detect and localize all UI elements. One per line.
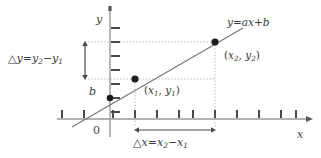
intercept-label: b — [89, 86, 96, 97]
delta-x-equals: = — [148, 136, 157, 149]
delta-y-equals: = — [23, 52, 32, 65]
x-axis-arrow — [306, 116, 313, 122]
equation-plus: + — [254, 16, 263, 28]
delta-y-arrow — [82, 41, 88, 80]
point1-label: (x1, y1) — [144, 85, 180, 97]
delta-x-term2-subscript: 1 — [183, 141, 188, 150]
delta-y-label: △y=y2−y1 — [8, 53, 63, 65]
line-equation-label: y=ax+b — [227, 17, 269, 28]
delta-y-term2-subscript: 1 — [58, 57, 63, 66]
point2-paren-close: ) — [256, 49, 260, 61]
delta-x-label: △x=x2−x1 — [133, 137, 188, 149]
point1-paren-close: ) — [176, 84, 180, 96]
origin-label: 0 — [93, 125, 100, 136]
x-axis-label: x — [297, 129, 303, 140]
delta-x-arrow — [134, 127, 216, 133]
figure-canvas — [0, 0, 321, 158]
point-intercept — [107, 95, 114, 102]
equation-b: b — [263, 16, 270, 28]
x-axis — [57, 110, 313, 122]
point2-comma: , — [239, 49, 242, 61]
delta-x-minus: − — [168, 136, 177, 149]
point-x2y2 — [211, 38, 218, 45]
point-x1y1 — [131, 75, 138, 82]
y-axis — [108, 6, 120, 137]
x-axis-ticks — [62, 110, 296, 118]
point1-comma: , — [159, 84, 162, 96]
point2-label: (x2, y2) — [224, 50, 260, 62]
line-graph-figure: y x 0 b y=ax+b (x1, y1) (x2, y2) △y=y2−y… — [0, 0, 321, 158]
equation-equals: = — [233, 16, 242, 28]
delta-y-minus: − — [43, 52, 52, 65]
y-axis-label: y — [96, 14, 102, 25]
y-axis-arrow — [108, 6, 111, 11]
